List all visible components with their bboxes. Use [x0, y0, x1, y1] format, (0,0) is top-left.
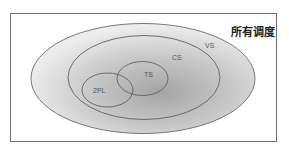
set-vs-label: VS: [205, 42, 215, 49]
diagram-title: 所有调度: [231, 25, 276, 39]
set-ts-label: TS: [144, 71, 153, 78]
set-cs-label: CS: [172, 54, 182, 61]
set-2pl-label: 2PL: [93, 87, 106, 94]
set-vs-ellipse: [31, 24, 255, 134]
venn-diagram: 所有调度 VS CS TS 2PL: [0, 0, 289, 153]
